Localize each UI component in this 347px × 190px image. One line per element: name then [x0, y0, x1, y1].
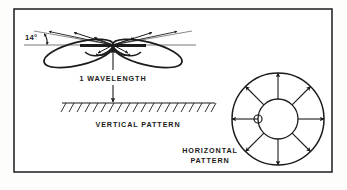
horizontal-pattern-label-line2: PATTERN: [190, 156, 229, 165]
vertical-pattern-label: VERTICAL PATTERN: [95, 120, 180, 129]
antenna-pattern-figure: 14°: [0, 0, 347, 190]
horizontal-pattern-label-line1: HORIZONTAL: [182, 146, 238, 155]
figure-canvas: 14°: [0, 0, 347, 190]
wavelength-label: 1 WAVELENGTH: [80, 74, 147, 83]
figure-border: [14, 9, 332, 172]
elevation-angle-label: 14°: [25, 33, 37, 42]
